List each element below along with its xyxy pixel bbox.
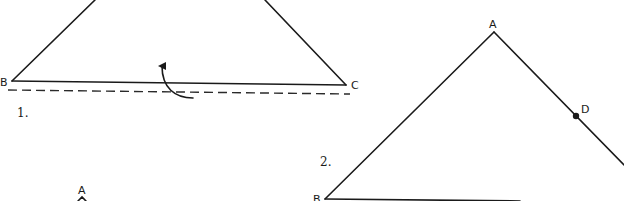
base-bc-fig1 (12, 81, 346, 85)
base-bc-fig2 (325, 199, 520, 201)
point-d (573, 113, 579, 119)
apex-fig3 (78, 197, 86, 201)
fold-arrow-icon (162, 66, 193, 98)
side-ab-fig2 (325, 32, 494, 199)
side-ac-fig1 (265, 0, 346, 85)
step-label-1: 1. (17, 106, 28, 120)
figure-3: A (78, 184, 86, 201)
vertex-b-fig2: B (313, 193, 321, 201)
figure-2: A D B 2. (313, 18, 624, 201)
fold-line (8, 90, 350, 94)
side-ab-fig1 (12, 0, 95, 81)
geometry-diagram: B C 1. A D B 2. A (0, 0, 624, 201)
vertex-b-fig1: B (0, 76, 8, 89)
vertex-d-fig2: D (581, 103, 589, 116)
vertex-c-fig1: C (351, 79, 359, 92)
side-ac-fig2 (494, 32, 624, 165)
figure-1: B C 1. (0, 0, 359, 120)
vertex-a-fig2: A (489, 18, 497, 31)
vertex-a-fig3: A (78, 184, 86, 197)
step-label-2: 2. (320, 155, 331, 169)
